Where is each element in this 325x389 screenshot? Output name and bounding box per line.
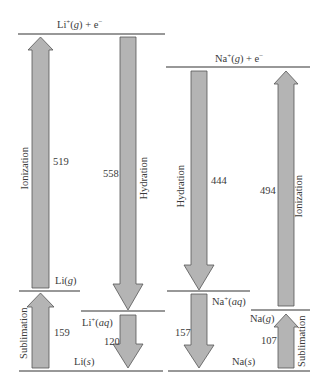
na-aq-label: Na+(aq) [212,296,246,308]
label-sup: + [227,52,231,60]
na-solid-label: Na(s) [232,357,255,368]
li-solid-label: Li(s) [74,357,94,368]
li-hydration-step-label: Hydration [139,151,150,205]
label-suffix: + e [243,53,259,64]
li-sublimation-arrow [27,293,54,368]
label-phase: s [248,356,252,367]
na-sublimation-arrow [274,314,298,368]
label-sup: + [66,18,70,26]
li-gas-ion-label: Li+(g) + e− [57,19,102,31]
label-base: Li [55,275,64,286]
na-sublimation-step-label: Sublimation [297,311,308,371]
li-sublimation-step-label: Sublimation [19,303,30,363]
na-sublimation-value: 107 [261,336,277,347]
label-phase: aq [232,296,243,307]
label-sup: + [224,295,228,303]
li-ionization-arrow [28,37,53,288]
li-ionization-step-label: Ionization [20,143,31,193]
li-aq-label: Li+(aq) [82,317,113,329]
label-sup: + [91,316,95,324]
label-base: Li [74,356,83,367]
li-sublimation-value: 159 [54,328,70,339]
na-solution-value: 157 [175,328,191,339]
label-phase: aq [99,317,110,328]
label-phase: s [87,356,91,367]
label-base: Na [215,53,227,64]
label-base: Na [250,313,262,324]
label-suffix-sup: − [98,18,102,26]
na-hydration-arrow [184,71,214,290]
label-phase: g [266,313,271,324]
li-ionization-value: 519 [53,157,69,168]
energy-diagram-graphics [0,0,325,389]
na-hydration-step-label: Hydration [176,159,187,213]
label-suffix: + e [83,19,99,30]
na-ionization-step-label: Ionization [294,171,305,221]
label-phase: g [235,53,240,64]
label-base: Na [232,356,244,367]
na-gas-label: Na(g) [250,314,275,325]
na-gas-ion-label: Na+(g) + e− [215,53,263,65]
na-hydration-value: 444 [211,176,227,187]
li-hydration-value: 558 [103,169,119,180]
label-base: Na [212,296,224,307]
li-solution-value: 120 [104,337,120,348]
label-phase: g [74,19,79,30]
label-base: Li [82,317,91,328]
li-gas-label: Li(g) [55,276,77,287]
label-suffix-sup: − [259,52,263,60]
na-ionization-value: 494 [260,186,276,197]
label-phase: g [68,275,73,286]
label-base: Li [57,19,66,30]
